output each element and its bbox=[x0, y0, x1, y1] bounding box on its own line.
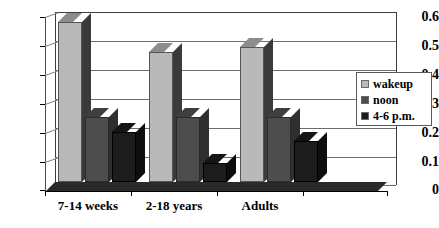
bar-evening-adults bbox=[294, 141, 318, 182]
legend-label-evening: 4-6 p.m. bbox=[373, 110, 415, 122]
bar-noon-7-14-weeks bbox=[85, 117, 109, 182]
legend-label-noon: noon bbox=[373, 94, 398, 106]
bar-evening-2-18-years bbox=[203, 163, 227, 182]
legend-label-wakeup: wakeup bbox=[373, 78, 413, 90]
chart-legend: wakeup noon 4-6 p.m. bbox=[356, 72, 432, 126]
bar-noon-adults bbox=[267, 117, 291, 182]
y-tick-label-0-5: 0.5 bbox=[403, 39, 439, 53]
bar-wakeup-7-14-weeks bbox=[58, 22, 82, 182]
bar-noon-2-18-years bbox=[176, 117, 200, 182]
x-tick-label-2-18-years: 2-18 years bbox=[131, 199, 217, 212]
y-tick-label-0: 0 bbox=[403, 183, 439, 197]
y-tick-label-0-6: 0.6 bbox=[403, 10, 439, 24]
legend-swatch-evening bbox=[361, 112, 369, 120]
bar-evening-7-14-weeks bbox=[112, 132, 136, 182]
x-tick-label-7-14-weeks: 7-14 weeks bbox=[45, 199, 131, 212]
x-tick-label-adults: Adults bbox=[217, 199, 303, 212]
bar-chart: 0.6 0.5 0.4 0.3 0.2 0.1 0 bbox=[0, 0, 439, 228]
legend-item-evening: 4-6 p.m. bbox=[361, 108, 427, 124]
bar-wakeup-adults bbox=[240, 47, 264, 182]
bar-wakeup-2-18-years bbox=[149, 52, 173, 182]
legend-item-wakeup: wakeup bbox=[361, 76, 427, 92]
y-tick-label-0-1: 0.1 bbox=[403, 155, 439, 169]
y-tick-label-0-2: 0.2 bbox=[403, 126, 439, 140]
legend-item-noon: noon bbox=[361, 92, 427, 108]
legend-swatch-noon bbox=[361, 96, 369, 104]
legend-swatch-wakeup bbox=[361, 80, 369, 88]
